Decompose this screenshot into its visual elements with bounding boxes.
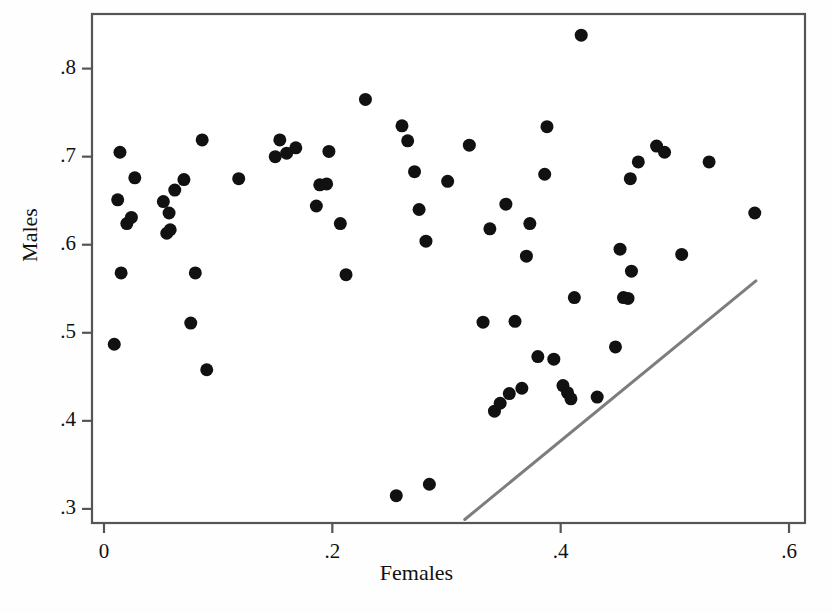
scatter-point: [477, 316, 490, 329]
scatter-point: [568, 291, 581, 304]
scatter-point: [625, 265, 638, 278]
scatter-point: [531, 350, 544, 363]
scatter-point: [632, 155, 645, 168]
scatter-point: [113, 146, 126, 159]
y-tick-label: .5: [34, 319, 76, 344]
x-axis-title: Females: [0, 560, 833, 586]
scatter-point: [499, 198, 512, 211]
scatter-point: [164, 223, 177, 236]
scatter-point: [232, 172, 245, 185]
scatter-point: [703, 155, 716, 168]
scatter-point: [463, 139, 476, 152]
scatter-point: [168, 184, 181, 197]
scatter-point: [494, 397, 507, 410]
scatter-point: [520, 250, 533, 263]
scatter-point: [189, 266, 202, 279]
scatter-point: [564, 392, 577, 405]
scatter-point: [547, 353, 560, 366]
scatter-point: [289, 141, 302, 154]
scatter-point: [523, 217, 536, 230]
scatter-point: [163, 207, 176, 220]
scatter-point: [128, 171, 141, 184]
scatter-point: [196, 133, 209, 146]
scatter-point: [200, 363, 213, 376]
scatter-point: [503, 387, 516, 400]
scatter-point: [591, 391, 604, 404]
scatter-point: [320, 177, 333, 190]
scatter-point: [423, 478, 436, 491]
scatter-point: [515, 382, 528, 395]
scatter-point: [157, 195, 170, 208]
scatter-point: [419, 235, 432, 248]
scatter-point: [273, 133, 286, 146]
scatter-point: [408, 165, 421, 178]
y-tick-label: .4: [34, 407, 76, 432]
scatter-point: [359, 93, 372, 106]
scatter-point: [658, 146, 671, 159]
scatter-point: [322, 145, 335, 158]
y-tick-label: .3: [34, 495, 76, 520]
scatter-point: [540, 120, 553, 133]
scatter-point: [441, 175, 454, 188]
scatter-point: [111, 193, 124, 206]
plot-canvas: [0, 0, 833, 613]
y-axis-title: Males: [17, 175, 43, 295]
scatter-point: [108, 338, 121, 351]
scatter-point: [609, 340, 622, 353]
scatter-point: [509, 315, 522, 328]
scatter-point: [269, 150, 282, 163]
scatter-point: [401, 134, 414, 147]
scatter-point: [675, 248, 688, 261]
scatter-point: [575, 29, 588, 42]
y-tick-label: .8: [34, 55, 76, 80]
scatter-point: [334, 217, 347, 230]
scatter-point: [624, 172, 637, 185]
scatter-point: [413, 203, 426, 216]
scatter-point: [177, 173, 190, 186]
y-tick-label: .7: [34, 143, 76, 168]
scatter-point: [340, 268, 353, 281]
scatter-point: [310, 199, 323, 212]
scatter-point: [622, 292, 635, 305]
scatter-point: [115, 266, 128, 279]
scatter-point: [125, 211, 138, 224]
scatter-point: [395, 119, 408, 132]
scatter-plot-figure: .3.4.5.6.7.80.2.4.6 Females Males: [0, 0, 833, 613]
scatter-point: [390, 489, 403, 502]
scatter-point: [538, 168, 551, 181]
scatter-point: [483, 222, 496, 235]
scatter-point: [614, 243, 627, 256]
scatter-point: [184, 317, 197, 330]
scatter-point: [748, 207, 761, 220]
